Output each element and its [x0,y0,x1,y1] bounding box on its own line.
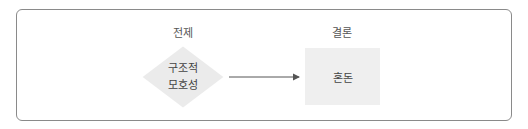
premise-line-1: 구조적 [168,60,198,77]
conclusion-text: 혼돈 [333,69,353,85]
diagram-frame [16,9,512,121]
arrow-icon [229,71,303,83]
conclusion-heading: 결론 [322,24,362,40]
premise-node: 구조적 모호성 [153,47,213,107]
premise-line-2: 모호성 [168,77,198,94]
premise-heading: 전제 [163,24,203,40]
conclusion-node: 혼돈 [305,48,380,105]
